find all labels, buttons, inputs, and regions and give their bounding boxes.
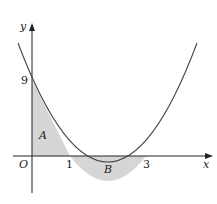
root-1-label: 1 <box>66 159 73 170</box>
origin-label: O <box>19 159 28 170</box>
region-a-label: A <box>39 130 47 141</box>
region-a-shade <box>32 80 70 156</box>
graph-figure: y 9 O 1 3 x A B <box>0 0 217 204</box>
y-axis-arrow-icon <box>29 23 35 31</box>
x-axis-label: x <box>203 159 209 170</box>
y-axis-label: y <box>20 21 26 32</box>
region-b-label: B <box>104 164 112 175</box>
y-intercept-label: 9 <box>21 75 28 86</box>
root-3-label: 3 <box>143 159 150 170</box>
